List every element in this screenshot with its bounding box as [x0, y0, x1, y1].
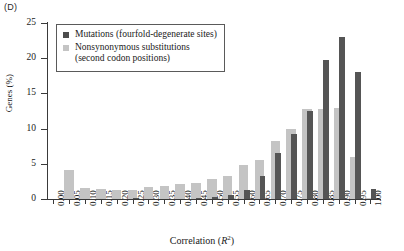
- bar-mutations: [212, 197, 218, 199]
- bar-nonsynonymous: [96, 189, 106, 199]
- y-axis-tick: [41, 199, 47, 200]
- x-axis-tick: [148, 200, 149, 204]
- bar-nonsynonymous: [160, 186, 170, 199]
- y-axis-tick-label: 10: [6, 124, 36, 133]
- x-axis-tick: [69, 200, 70, 204]
- bar-nonsynonymous: [175, 184, 185, 199]
- bar-mutations: [133, 198, 139, 199]
- x-axis-tick: [370, 200, 371, 204]
- x-axis-label: Correlation (R2): [0, 234, 404, 246]
- bar-nonsynonymous: [112, 190, 122, 199]
- x-axis-tick: [323, 200, 324, 204]
- x-axis-tick: [259, 200, 260, 204]
- x-axis-tick: [228, 200, 229, 204]
- x-axis-tick: [339, 200, 340, 204]
- legend-item-mutations: Mutations (fourfold-degenerate sites): [63, 29, 217, 41]
- x-axis-tick: [196, 200, 197, 204]
- x-axis-label-prefix: Correlation (: [170, 235, 221, 246]
- x-axis-tick: [212, 200, 213, 204]
- bar-nonsynonymous: [80, 188, 90, 199]
- legend-item-label: Nonsynonymous substitutions (second codo…: [75, 42, 190, 65]
- y-axis-tick-label: 5: [6, 159, 36, 168]
- bar-mutations: [339, 37, 345, 199]
- x-axis-label-suffix: ): [231, 235, 234, 246]
- figure-panel-d: (D) Genes (%) 0510152025 0.000.050.100.1…: [0, 0, 404, 251]
- x-axis-tick: [53, 200, 54, 204]
- square-swatch-icon: [63, 32, 69, 38]
- bar-mutations: [291, 134, 297, 199]
- chart-legend: Mutations (fourfold-degenerate sites) No…: [56, 24, 225, 72]
- x-axis-tick: [291, 200, 292, 204]
- legend-item-label: Mutations (fourfold-degenerate sites): [75, 29, 217, 41]
- bar-mutations: [355, 72, 361, 199]
- x-axis-tick: [133, 200, 134, 204]
- x-axis-tick: [275, 200, 276, 204]
- x-axis-tick: [244, 200, 245, 204]
- bar-mutations: [228, 195, 234, 199]
- bar-mutations: [307, 111, 313, 199]
- bar-nonsynonymous: [144, 187, 154, 199]
- x-axis-tick: [164, 200, 165, 204]
- legend-item-nonsynonymous: Nonsynonymous substitutions (second codo…: [63, 42, 217, 65]
- y-axis-tick-label: 20: [6, 53, 36, 62]
- y-axis-tick-label: 0: [6, 194, 36, 203]
- square-swatch-icon: [63, 45, 69, 51]
- x-axis-tick: [355, 200, 356, 204]
- bar-mutations: [275, 153, 281, 199]
- bar-mutations: [196, 198, 202, 199]
- x-axis-tick: [117, 200, 118, 204]
- y-axis-tick-label: 25: [6, 18, 36, 27]
- panel-label: (D): [4, 2, 17, 12]
- bar-nonsynonymous: [191, 183, 201, 199]
- bar-mutations: [323, 60, 329, 199]
- bar-mutations: [260, 176, 266, 199]
- x-axis-tick: [85, 200, 86, 204]
- bar-mutations: [244, 190, 250, 199]
- x-axis-tick: [307, 200, 308, 204]
- x-axis-tick: [180, 200, 181, 204]
- bar-nonsynonymous: [64, 170, 74, 199]
- bar-mutations: [371, 189, 377, 199]
- y-axis-tick-label: 15: [6, 88, 36, 97]
- x-axis-tick: [101, 200, 102, 204]
